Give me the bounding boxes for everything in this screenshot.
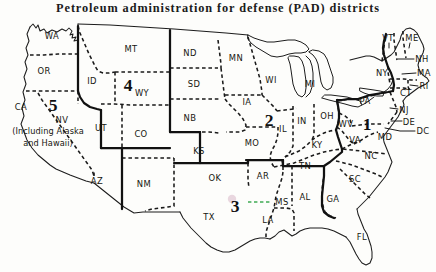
district-number-4: 4 xyxy=(124,75,133,96)
district-boundaries xyxy=(78,26,394,218)
alaska-hawaii-note: (Including Alaska xyxy=(12,126,84,136)
figure-canvas: Petroleum administration for defense (PA… xyxy=(0,0,436,272)
district-number-2: 2 xyxy=(265,110,274,131)
district-number-3: 3 xyxy=(231,196,240,217)
alaska-hawaii-note-line2: and Hawaii) xyxy=(23,138,73,148)
pad-district-map xyxy=(0,0,436,272)
national-outline xyxy=(21,24,429,265)
district-number-1: 1 xyxy=(363,114,372,135)
district-number-5: 5 xyxy=(49,95,58,116)
